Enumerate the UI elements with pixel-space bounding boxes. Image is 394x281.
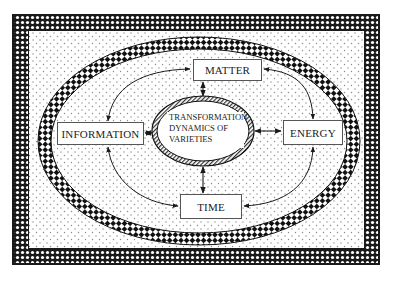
node-matter-label: MATTER bbox=[205, 64, 250, 76]
node-information: INFORMATION bbox=[57, 122, 144, 145]
node-matter: MATTER bbox=[193, 59, 262, 81]
node-center: TRANSFORMATION DYNAMICS OF VARIETIES bbox=[167, 112, 244, 148]
center-label-line3: VARIETIES bbox=[169, 134, 244, 145]
node-time-label: TIME bbox=[197, 201, 225, 213]
node-time: TIME bbox=[180, 194, 242, 219]
center-label-line2: DYNAMICS OF bbox=[169, 123, 244, 134]
node-information-label: INFORMATION bbox=[62, 128, 140, 140]
diagram-canvas: MATTER INFORMATION ENERGY TIME TRANSFORM… bbox=[0, 0, 394, 281]
node-energy-label: ENERGY bbox=[290, 127, 336, 139]
center-label-line1: TRANSFORMATION bbox=[169, 112, 244, 123]
node-energy: ENERGY bbox=[283, 120, 343, 145]
